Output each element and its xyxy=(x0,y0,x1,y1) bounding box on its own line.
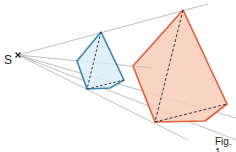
center-label: S xyxy=(4,53,12,67)
central-dilation-diagram xyxy=(0,0,236,152)
small-pyramid-face xyxy=(77,32,124,89)
figure-caption: Fig. 1 xyxy=(215,136,236,152)
small-pyramid xyxy=(77,32,124,89)
